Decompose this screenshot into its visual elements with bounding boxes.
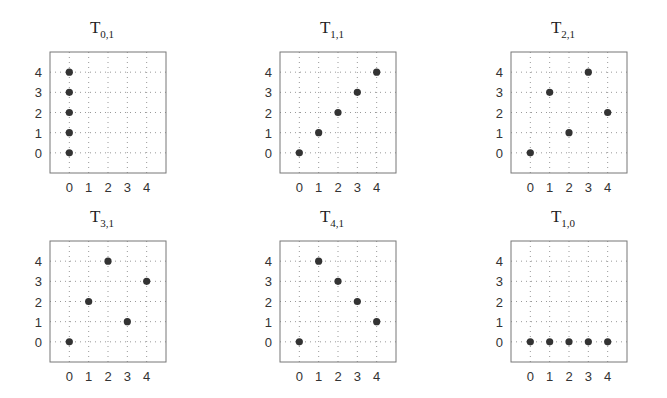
x-tick-label: 1 bbox=[315, 180, 322, 195]
data-point bbox=[124, 318, 131, 325]
data-point bbox=[66, 338, 73, 345]
x-tick-label: 0 bbox=[296, 180, 303, 195]
data-point bbox=[354, 89, 361, 96]
data-point bbox=[604, 109, 611, 116]
data-point bbox=[66, 69, 73, 76]
y-tick-label: 2 bbox=[35, 106, 42, 121]
x-tick-label: 3 bbox=[585, 180, 592, 195]
subplot-title: T2,1 bbox=[551, 18, 575, 40]
y-tick-label: 0 bbox=[35, 335, 42, 350]
y-tick-label: 1 bbox=[35, 315, 42, 330]
data-point bbox=[104, 258, 111, 265]
y-tick-label: 1 bbox=[265, 315, 272, 330]
y-tick-label: 1 bbox=[265, 126, 272, 141]
data-point bbox=[334, 278, 341, 285]
x-tick-label: 4 bbox=[604, 180, 611, 195]
subplot-3: 0123401234T3,1 bbox=[35, 207, 166, 384]
data-point bbox=[546, 89, 553, 96]
x-tick-label: 4 bbox=[604, 369, 611, 384]
subplot-2: 0123401234T2,1 bbox=[496, 18, 627, 195]
data-point bbox=[334, 109, 341, 116]
data-point bbox=[373, 69, 380, 76]
data-point bbox=[527, 338, 534, 345]
data-point bbox=[66, 109, 73, 116]
data-point bbox=[296, 149, 303, 156]
y-tick-label: 4 bbox=[265, 254, 272, 269]
x-tick-label: 2 bbox=[104, 369, 111, 384]
x-tick-label: 2 bbox=[104, 180, 111, 195]
data-point bbox=[565, 129, 572, 136]
data-point bbox=[354, 298, 361, 305]
x-tick-label: 2 bbox=[334, 369, 341, 384]
subplot-title: T0,1 bbox=[90, 18, 114, 40]
x-tick-label: 2 bbox=[565, 180, 572, 195]
y-tick-label: 2 bbox=[265, 106, 272, 121]
y-tick-label: 4 bbox=[496, 65, 503, 80]
x-tick-label: 4 bbox=[143, 369, 150, 384]
data-point bbox=[296, 338, 303, 345]
y-tick-label: 4 bbox=[496, 254, 503, 269]
subplot-title: T1,0 bbox=[551, 207, 576, 229]
data-point bbox=[315, 258, 322, 265]
data-point bbox=[546, 338, 553, 345]
subplot-title: T1,1 bbox=[320, 18, 344, 40]
subplot-0: 0123401234T0,1 bbox=[35, 18, 166, 195]
y-tick-label: 3 bbox=[35, 85, 42, 100]
y-tick-label: 2 bbox=[496, 106, 503, 121]
figure: 0123401234T0,10123401234T1,10123401234T2… bbox=[0, 0, 667, 398]
data-point bbox=[585, 69, 592, 76]
x-tick-label: 0 bbox=[66, 369, 73, 384]
x-tick-label: 0 bbox=[296, 369, 303, 384]
y-tick-label: 3 bbox=[496, 85, 503, 100]
subplot-title: T4,1 bbox=[320, 207, 344, 229]
x-tick-label: 4 bbox=[373, 180, 380, 195]
x-tick-label: 2 bbox=[334, 180, 341, 195]
data-point bbox=[66, 149, 73, 156]
x-tick-label: 0 bbox=[527, 180, 534, 195]
data-point bbox=[604, 338, 611, 345]
x-tick-label: 1 bbox=[546, 180, 553, 195]
x-tick-label: 3 bbox=[354, 180, 361, 195]
y-tick-label: 3 bbox=[496, 274, 503, 289]
x-tick-label: 0 bbox=[527, 369, 534, 384]
y-tick-label: 3 bbox=[265, 85, 272, 100]
data-point bbox=[565, 338, 572, 345]
y-tick-label: 4 bbox=[35, 65, 42, 80]
subplot-title: T3,1 bbox=[90, 207, 114, 229]
data-point bbox=[143, 278, 150, 285]
x-tick-label: 1 bbox=[85, 369, 92, 384]
x-tick-label: 4 bbox=[143, 180, 150, 195]
y-tick-label: 4 bbox=[265, 65, 272, 80]
y-tick-label: 1 bbox=[496, 315, 503, 330]
y-tick-label: 1 bbox=[35, 126, 42, 141]
y-tick-label: 1 bbox=[496, 126, 503, 141]
y-tick-label: 2 bbox=[496, 295, 503, 310]
y-tick-label: 0 bbox=[265, 146, 272, 161]
y-tick-label: 3 bbox=[35, 274, 42, 289]
data-point bbox=[85, 298, 92, 305]
y-tick-label: 2 bbox=[35, 295, 42, 310]
x-tick-label: 3 bbox=[585, 369, 592, 384]
data-point bbox=[66, 89, 73, 96]
x-tick-label: 0 bbox=[66, 180, 73, 195]
x-tick-label: 3 bbox=[354, 369, 361, 384]
y-tick-label: 2 bbox=[265, 295, 272, 310]
x-tick-label: 4 bbox=[373, 369, 380, 384]
subplot-1: 0123401234T1,1 bbox=[265, 18, 396, 195]
data-point bbox=[527, 149, 534, 156]
x-tick-label: 3 bbox=[124, 369, 131, 384]
data-point bbox=[315, 129, 322, 136]
x-tick-label: 3 bbox=[124, 180, 131, 195]
y-tick-label: 0 bbox=[496, 335, 503, 350]
x-tick-label: 2 bbox=[565, 369, 572, 384]
data-point bbox=[66, 129, 73, 136]
y-tick-label: 0 bbox=[35, 146, 42, 161]
subplot-5: 0123401234T1,0 bbox=[496, 207, 627, 384]
y-tick-label: 3 bbox=[265, 274, 272, 289]
x-tick-label: 1 bbox=[546, 369, 553, 384]
y-tick-label: 0 bbox=[265, 335, 272, 350]
data-point bbox=[373, 318, 380, 325]
x-tick-label: 1 bbox=[315, 369, 322, 384]
data-point bbox=[585, 338, 592, 345]
subplot-4: 0123401234T4,1 bbox=[265, 207, 396, 384]
